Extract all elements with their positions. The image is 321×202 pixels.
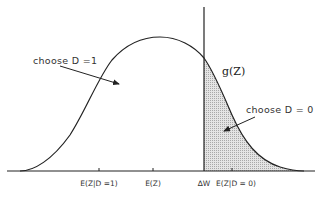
distribution-diagram: E(Z|D =1) E(Z) ∆W E(Z|D = 0) g(Z) choose… xyxy=(0,0,321,202)
region-label-choose-d0: choose D = 0 xyxy=(246,104,314,115)
tick-label-delta-w: ∆W xyxy=(197,179,211,188)
tick-label-e-z-d1: E(Z|D =1) xyxy=(80,179,118,188)
curve-label: g(Z) xyxy=(222,65,245,78)
region-label-choose-d1: choose D =1 xyxy=(33,55,97,66)
tick-label-e-z: E(Z) xyxy=(145,179,161,188)
arrow-choose-d1 xyxy=(60,66,119,84)
tick-label-e-z-d0: E(Z|D = 0) xyxy=(216,179,256,188)
